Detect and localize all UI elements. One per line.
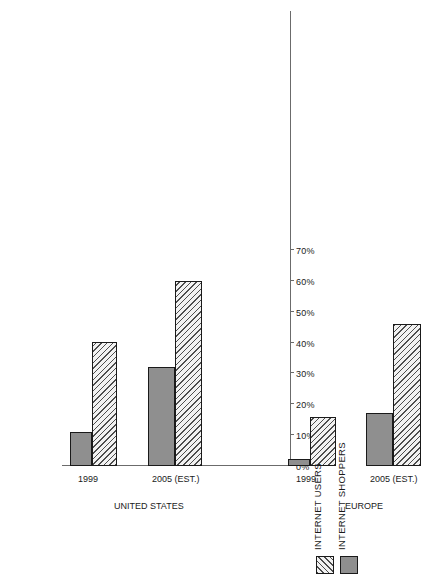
bar-europe-1999-users — [310, 417, 336, 466]
category-label-europe-2005: 2005 (EST.) — [370, 474, 418, 484]
legend-label-internet-shoppers: INTERNET SHOPPERS — [336, 442, 347, 550]
plot-area: 70% 60% 50% 40% 30% 20% 10% 0% 1999 2005… — [52, 0, 302, 466]
bar-us-2005-users — [175, 281, 202, 466]
bar-us-1999-users — [92, 342, 117, 466]
legend-label-internet-users: INTERNET USERS — [312, 463, 323, 550]
value-axis-line — [290, 11, 291, 466]
bar-europe-2005-users — [393, 324, 421, 466]
tick-label-50: 50% — [296, 308, 315, 318]
bar-europe-2005-shoppers — [366, 413, 393, 466]
tick-label-20: 20% — [296, 400, 315, 410]
bar-us-2005-shoppers — [148, 367, 175, 466]
tick-mark-10 — [290, 434, 294, 435]
group-label-united-states: UNITED STATES — [114, 501, 184, 511]
category-label-us-1999: 1999 — [78, 474, 98, 484]
tick-mark-20 — [290, 403, 294, 404]
tick-label-30: 30% — [296, 369, 315, 379]
tick-mark-40 — [290, 342, 294, 343]
chart-plot-rotated: 70% 60% 50% 40% 30% 20% 10% 0% 1999 2005… — [52, 0, 302, 466]
tick-label-40: 40% — [296, 339, 315, 349]
bar-us-1999-shoppers — [70, 432, 92, 466]
legend-swatch-users-icon — [316, 556, 334, 574]
tick-label-60: 60% — [296, 277, 315, 287]
tick-mark-60 — [290, 280, 294, 281]
legend-swatch-shoppers-icon — [340, 556, 358, 574]
tick-label-70: 70% — [296, 246, 315, 256]
category-label-us-2005: 2005 (EST.) — [152, 474, 200, 484]
tick-mark-30 — [290, 372, 294, 373]
chart-legend: INTERNET USERS INTERNET SHOPPERS — [262, 462, 356, 586]
tick-mark-50 — [290, 311, 294, 312]
tick-mark-70 — [290, 249, 294, 250]
